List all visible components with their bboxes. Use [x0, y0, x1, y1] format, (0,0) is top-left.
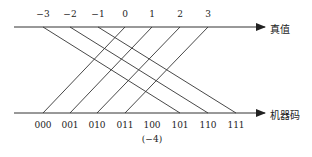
top-tick-label: −3 — [36, 9, 49, 19]
top-tick-label: −2 — [63, 9, 76, 19]
top-tick-label: 1 — [149, 9, 155, 19]
mapping-diagram: −3−2−10123 000001010011100101110111 真值 机… — [0, 0, 312, 157]
top-axis-name: 真值 — [270, 21, 290, 36]
negative-four-note: (−4) — [142, 134, 162, 144]
bottom-tick-label: 101 — [171, 120, 188, 130]
top-tick-label: 3 — [205, 9, 211, 19]
mapping-line — [125, 27, 208, 113]
bottom-tick-label: 111 — [227, 120, 244, 130]
mapping-lines — [43, 27, 236, 113]
mapping-line — [43, 27, 125, 113]
bottom-tick-label: 001 — [61, 120, 78, 130]
bottom-tick-label: 100 — [143, 120, 160, 130]
bottom-tick-label: 010 — [88, 120, 105, 130]
bottom-tick-label: 000 — [34, 120, 51, 130]
top-tick-label: 2 — [177, 9, 183, 19]
bottom-axis-name: 机器码 — [270, 107, 300, 122]
bottom-tick-label: 110 — [199, 120, 216, 130]
top-tick-label: 0 — [122, 9, 128, 19]
bottom-tick-label: 011 — [116, 120, 133, 130]
top-tick-label: −1 — [91, 9, 104, 19]
